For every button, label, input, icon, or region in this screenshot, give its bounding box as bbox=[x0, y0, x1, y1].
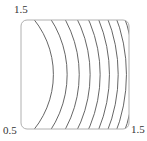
contour-line bbox=[0, 0, 147, 141]
plot-frame bbox=[21, 20, 129, 129]
contour-line bbox=[0, 0, 147, 141]
contour-line bbox=[0, 0, 147, 141]
contour-plot bbox=[0, 0, 147, 141]
contour-line bbox=[0, 0, 147, 141]
contour-line bbox=[0, 0, 100, 141]
y-axis-max-label: 1.5 bbox=[14, 4, 28, 15]
contour-line bbox=[0, 0, 147, 141]
contour-line bbox=[0, 0, 147, 141]
contour-line bbox=[0, 0, 126, 141]
contour-line bbox=[0, 0, 147, 141]
contour-line bbox=[0, 0, 109, 141]
contour-line bbox=[0, 0, 53, 141]
x-axis-max-label: 1.5 bbox=[131, 124, 145, 135]
axes-origin-label: 0.5 bbox=[3, 125, 17, 136]
contour-line bbox=[0, 0, 67, 141]
contour-lines bbox=[0, 0, 147, 141]
contour-line bbox=[0, 0, 147, 141]
contour-line bbox=[0, 0, 90, 141]
